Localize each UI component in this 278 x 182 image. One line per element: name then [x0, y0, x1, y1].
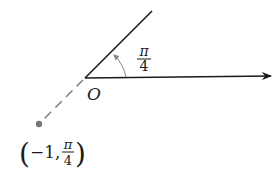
origin-label: O: [87, 84, 101, 104]
angle-arc: [114, 55, 126, 77]
point-label-theta-denominator: 4: [64, 153, 72, 168]
dashed-extension: [40, 80, 83, 123]
point-marker: [36, 121, 42, 127]
angle-label-denominator: 4: [140, 58, 149, 74]
point-label-theta-numerator: π: [63, 137, 73, 152]
point-label-open-paren: (: [19, 137, 30, 170]
angle-label-numerator: π: [138, 43, 149, 59]
point-label-r: −1,: [30, 142, 60, 162]
point-label-close-paren: ): [75, 137, 86, 170]
polar-axis: [85, 76, 271, 78]
polar-diagram: π 4 O ( −1, π 4 ): [0, 0, 278, 182]
